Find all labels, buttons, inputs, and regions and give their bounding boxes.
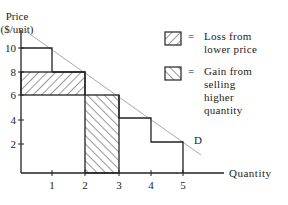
legend-gain-line4: quantity <box>204 104 243 116</box>
y-tick-2: 2 <box>11 138 17 150</box>
legend-equals-gain: = <box>188 65 194 77</box>
y-axis-label-line2: ($/unit) <box>1 23 34 36</box>
legend: = Loss from lower price = Gain from sell… <box>165 30 257 116</box>
y-tick-6: 6 <box>11 89 17 101</box>
y-tick-4: 4 <box>11 114 17 126</box>
legend-gain-line1: Gain from <box>204 65 252 77</box>
step-q1 <box>21 48 52 72</box>
step-q3-q5 <box>119 95 183 173</box>
legend-swatch-gain <box>165 67 181 80</box>
x-axis-label: Quantity <box>229 167 272 179</box>
demand-label: D <box>194 134 202 146</box>
legend-gain-line2: selling <box>204 78 236 90</box>
y-tick-8: 8 <box>11 66 17 78</box>
x-tick-2: 2 <box>82 179 88 191</box>
y-axis-label-line1: Price <box>6 10 29 22</box>
x-tick-4: 4 <box>148 179 154 191</box>
legend-loss-line2: lower price <box>204 43 257 55</box>
loss-region <box>21 72 85 95</box>
legend-equals-loss: = <box>188 30 194 42</box>
x-tick-1: 1 <box>49 179 55 191</box>
legend-swatch-loss <box>165 32 181 45</box>
gain-region <box>85 95 119 173</box>
x-tick-5: 5 <box>180 179 186 191</box>
chart: Price ($/unit) D 10 8 6 4 2 1 2 3 4 5 Qu… <box>0 0 288 205</box>
x-tick-3: 3 <box>116 179 122 191</box>
y-tick-10: 10 <box>5 42 17 54</box>
legend-loss-line1: Loss from <box>204 30 252 42</box>
legend-gain-line3: higher <box>204 91 234 103</box>
